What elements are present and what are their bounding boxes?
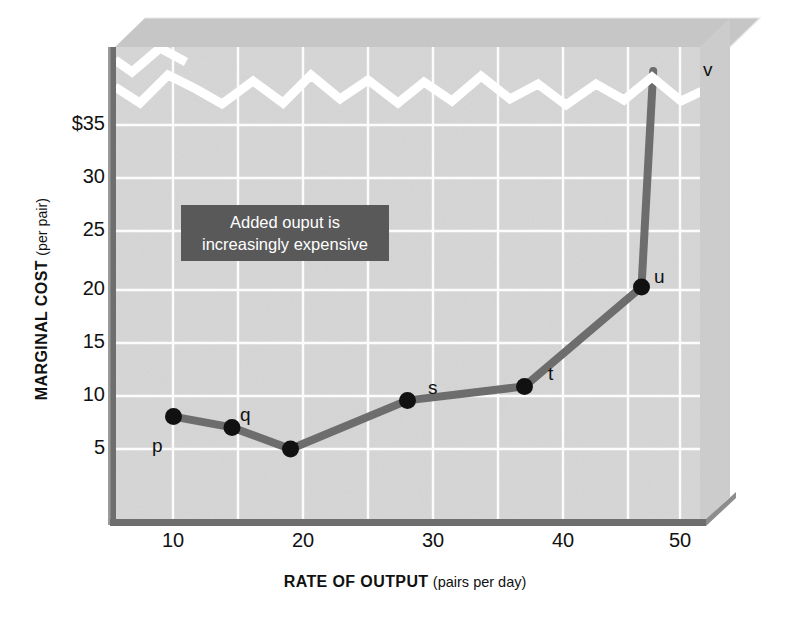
y-tick-15: 15 bbox=[45, 331, 105, 351]
annotation-line-2: increasingly expensive bbox=[202, 233, 368, 255]
chart-plot-area bbox=[0, 0, 806, 620]
x-tick-40: 40 bbox=[533, 530, 593, 550]
y-axis-spine-light bbox=[108, 47, 111, 525]
marginal-cost-chart-figure: $35 30 25 20 15 10 5 10 20 30 40 50 p q … bbox=[0, 0, 806, 620]
y-axis-title: MARGINAL COST (per pair) bbox=[33, 139, 51, 459]
point-label-t: t bbox=[548, 364, 553, 383]
y-tick-35: $35 bbox=[45, 113, 105, 133]
x-tick-10: 10 bbox=[143, 530, 203, 550]
data-point-t bbox=[516, 378, 533, 395]
x-axis-title: RATE OF OUTPUT (pairs per day) bbox=[115, 573, 695, 591]
point-label-r: r bbox=[292, 437, 298, 456]
data-point-u bbox=[633, 279, 650, 296]
annotation-callout: Added ouput is increasingly expensive bbox=[181, 205, 389, 261]
annotation-line-1: Added ouput is bbox=[230, 211, 340, 233]
y-axis-spine bbox=[110, 47, 116, 525]
x-axis-title-strong: RATE OF OUTPUT bbox=[284, 573, 429, 590]
plate-right-bevel bbox=[700, 18, 730, 525]
x-tick-50: 50 bbox=[650, 530, 710, 550]
x-tick-30: 30 bbox=[403, 530, 463, 550]
point-label-q: q bbox=[240, 405, 251, 424]
y-tick-20: 20 bbox=[45, 278, 105, 298]
y-tick-30: 30 bbox=[45, 166, 105, 186]
plate-top-bevel bbox=[115, 18, 760, 47]
x-tick-20: 20 bbox=[273, 530, 333, 550]
point-label-v: v bbox=[703, 60, 713, 79]
data-point-q bbox=[224, 419, 241, 436]
y-tick-25: 25 bbox=[45, 219, 105, 239]
point-label-p: p bbox=[152, 436, 163, 455]
plot-plate bbox=[115, 47, 700, 525]
x-axis-title-light: (pairs per day) bbox=[433, 574, 526, 590]
data-point-s bbox=[399, 392, 416, 409]
y-axis-title-strong: MARGINAL COST bbox=[33, 260, 50, 400]
y-axis-title-light: (per pair) bbox=[34, 198, 50, 256]
y-tick-10: 10 bbox=[45, 384, 105, 404]
data-point-p bbox=[165, 408, 182, 425]
y-tick-5: 5 bbox=[45, 437, 105, 457]
point-label-s: s bbox=[428, 378, 438, 397]
x-axis-spine bbox=[110, 519, 706, 526]
point-label-u: u bbox=[654, 267, 665, 286]
